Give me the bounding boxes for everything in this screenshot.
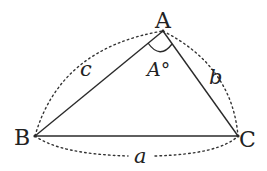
- side-a-label: a: [134, 144, 147, 168]
- triangle-diagram: A B C c b a A°: [0, 0, 267, 171]
- side-b-label: b: [209, 65, 222, 89]
- edge-ab: [35, 31, 163, 136]
- side-a-dotted-arc-right: [155, 136, 238, 156]
- triangle-svg: A B C c b a A°: [0, 0, 267, 171]
- angle-a-label: A°: [145, 58, 170, 80]
- side-c-label: c: [80, 57, 92, 81]
- vertex-a-label: A: [154, 8, 172, 33]
- edge-ac: [163, 31, 238, 136]
- vertex-c-label: C: [239, 127, 256, 152]
- vertex-b-dot: [33, 134, 36, 137]
- side-a-dotted-arc-left: [35, 136, 128, 156]
- vertex-b-label: B: [14, 125, 30, 150]
- angle-a-arc: [148, 43, 172, 52]
